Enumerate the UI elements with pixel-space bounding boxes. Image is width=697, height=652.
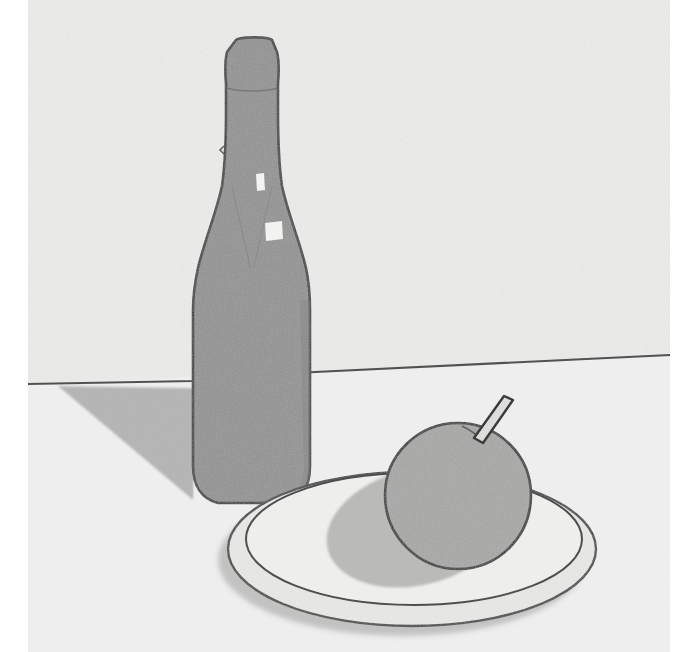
still-life-illustration [0, 0, 697, 652]
page-root: p [0, 0, 697, 652]
scanned-paper [28, 0, 670, 652]
scan-overlay-grain [28, 0, 670, 652]
